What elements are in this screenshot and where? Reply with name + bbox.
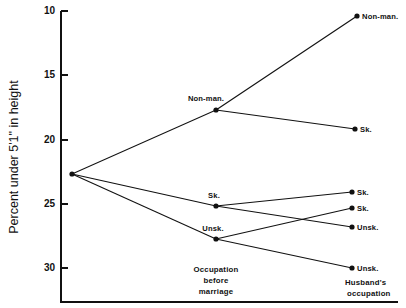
label-right-nonman: Non-man. <box>362 12 398 21</box>
label-mid-unsk: Unsk. <box>202 224 223 233</box>
link-origin-to-mid-sk <box>72 174 216 206</box>
caption-right-line1: Husband's <box>345 278 387 287</box>
node-right-unsk-b <box>349 265 354 270</box>
label-right-sk-b: Sk. <box>357 204 369 213</box>
ytick-label-25: 25 <box>44 198 56 209</box>
ytick-label-10: 10 <box>44 5 56 16</box>
node-right-unsk-a <box>349 224 354 229</box>
caption-right-line2: occupation <box>347 289 391 298</box>
link-mid-nonman-to-right-nonman <box>216 16 357 110</box>
label-right-unsk-a: Unsk. <box>357 223 378 232</box>
node-right-sk-top <box>352 126 357 131</box>
ytick-label-20: 20 <box>44 134 56 145</box>
label-right-sk-a: Sk. <box>357 188 369 197</box>
ytick-label-15: 15 <box>44 69 56 80</box>
node-mid-unsk <box>213 236 218 241</box>
node-origin <box>69 171 74 176</box>
link-origin-to-mid-nonman <box>72 110 216 174</box>
node-right-nonman <box>354 13 359 18</box>
ytick-label-30: 30 <box>44 262 56 273</box>
chart-canvas: 10 15 20 25 30 Percent under 5'1" in hei… <box>0 0 406 308</box>
link-mid-unsk-to-right-unsk <box>216 239 352 268</box>
caption-middle-line3: marriage <box>199 287 234 296</box>
chart-figure: 10 15 20 25 30 Percent under 5'1" in hei… <box>0 0 406 308</box>
node-label-group: Non-man. Sk. Unsk. Non-man. Sk. Sk. Sk. … <box>188 12 398 273</box>
link-mid-nonman-to-right-sk <box>216 110 355 129</box>
link-origin-to-mid-unsk <box>72 174 216 239</box>
node-mid-nonman <box>213 107 218 112</box>
node-mid-sk <box>213 203 218 208</box>
label-mid-nonman: Non-man. <box>188 94 224 103</box>
axis-group: 10 15 20 25 30 <box>44 5 398 302</box>
caption-middle-line2: before <box>203 276 228 285</box>
caption-middle-line1: Occupation <box>194 265 239 274</box>
label-right-unsk-b: Unsk. <box>357 264 378 273</box>
node-right-sk-b <box>349 205 354 210</box>
node-right-sk-a <box>349 189 354 194</box>
label-right-sk-top: Sk. <box>360 125 372 134</box>
link-mid-sk-to-right-sk <box>216 192 352 206</box>
label-mid-sk: Sk. <box>208 191 220 200</box>
y-axis-label: Percent under 5'1" in height <box>7 80 21 234</box>
